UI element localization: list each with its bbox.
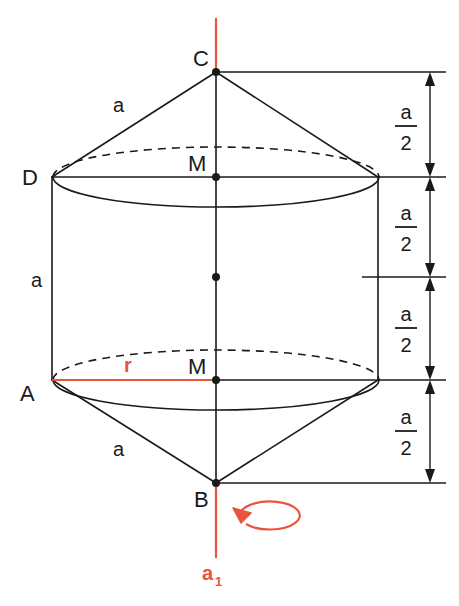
dim-arrow-1-up: [425, 72, 435, 86]
edge-A-B: [52, 380, 216, 483]
geometry-figure: a 2 a 2 a 2 a 2 C D M A M B a a a r: [0, 0, 459, 606]
dim-4-numerator: a: [400, 406, 412, 428]
dim-2-denominator: 2: [400, 233, 411, 255]
rotation-arrowhead: [233, 508, 251, 523]
vertex-label-A: A: [20, 381, 35, 406]
dim-3-denominator: 2: [400, 334, 411, 356]
dim-3-numerator: a: [400, 303, 412, 325]
edge-label-a-top-cone: a: [113, 94, 125, 116]
dim-arrow-4-down: [425, 469, 435, 483]
dim-arrow-4-up: [425, 380, 435, 394]
vertex-label-D: D: [22, 165, 38, 190]
figure-canvas: a 2 a 2 a 2 a 2 C D M A M B a a a r: [0, 0, 459, 606]
dim-arrow-1-down: [425, 163, 435, 177]
dim-label-3: a 2: [395, 303, 417, 356]
edge-label-a-cylinder: a: [31, 269, 43, 291]
dim-label-2: a 2: [395, 202, 417, 255]
edge-C-right: [216, 72, 378, 177]
dim-label-4: a 2: [395, 406, 417, 459]
dim-4-denominator: 2: [400, 437, 411, 459]
vertex-dot-M-top: [212, 173, 220, 181]
dim-arrow-2-up: [425, 177, 435, 191]
dim-arrow-3-down: [425, 366, 435, 380]
vertex-label-M-top: M: [188, 151, 206, 176]
dim-label-1: a 2: [395, 101, 417, 154]
vertex-label-M-bottom: M: [188, 354, 206, 379]
axis-label-subscript: 1: [215, 574, 222, 589]
dim-2-numerator: a: [400, 202, 412, 224]
edge-label-a-bottom-cone: a: [113, 438, 125, 460]
edge-right-B: [216, 380, 378, 483]
vertex-dot-M-bottom: [212, 376, 220, 384]
vertex-label-C: C: [193, 46, 209, 71]
vertex-dot-M-mid: [212, 273, 220, 281]
dim-1-numerator: a: [400, 101, 412, 123]
dim-1-denominator: 2: [400, 132, 411, 154]
vertex-label-B: B: [194, 487, 209, 512]
dim-arrow-3-up: [425, 277, 435, 291]
dim-arrow-2-down: [425, 263, 435, 277]
radius-label-r: r: [124, 354, 132, 376]
axis-label-a: a: [202, 562, 214, 584]
